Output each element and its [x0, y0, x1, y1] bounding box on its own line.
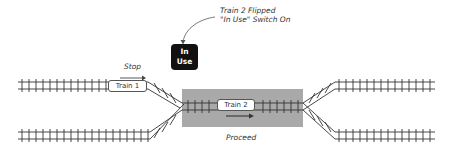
annotation-line-1: Train 2 Flipped: [220, 6, 290, 15]
train-1: Train 1: [108, 80, 147, 92]
in-use-switch[interactable]: In Use: [171, 44, 198, 70]
proceed-label: Proceed: [226, 133, 256, 142]
in-use-line-1: In: [180, 47, 188, 57]
in-use-line-2: Use: [177, 57, 193, 67]
train-1-label: Train 1: [116, 82, 139, 90]
train-2: Train 2: [217, 99, 255, 111]
annotation-text: Train 2 Flipped "In Use" Switch On: [220, 6, 290, 24]
annotation-line-2: "In Use" Switch On: [220, 15, 290, 24]
train-2-label: Train 2: [224, 101, 247, 109]
stop-label: Stop: [124, 62, 141, 71]
annotation-pointer-icon: [181, 17, 216, 45]
